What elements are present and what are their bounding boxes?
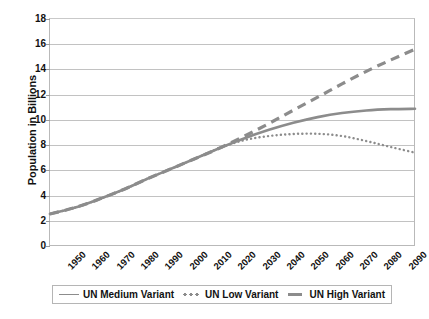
x-axis-tick-label: 2000 [187, 249, 210, 272]
population-projection-chart: Population in Billions 181614121086420 1… [0, 0, 429, 319]
series-line-dotted [50, 134, 415, 214]
y-axis-tick-label: 18 [22, 13, 46, 24]
x-axis-tick-label: 1990 [163, 249, 186, 272]
y-axis-tick-label: 10 [22, 113, 46, 124]
series-lines [50, 19, 416, 247]
chart-legend: UN Medium VariantUN Low VariantUN High V… [52, 285, 392, 304]
x-axis-tick-label: 2080 [382, 249, 405, 272]
x-axis-tick-label: 2060 [333, 249, 356, 272]
legend-label: UN Medium Variant [83, 289, 174, 300]
x-axis-tick-label: 2070 [357, 249, 380, 272]
x-axis-tick-label: 2040 [284, 249, 307, 272]
y-axis-tick-label: 8 [22, 139, 46, 150]
x-axis-tick-label: 2020 [236, 249, 259, 272]
legend-entry[interactable]: UN Low Variant [181, 289, 278, 300]
x-axis-tick-label: 1970 [114, 249, 137, 272]
x-axis-tick-label: 2030 [260, 249, 283, 272]
x-axis-tick-label: 2090 [406, 249, 429, 272]
x-axis-tick-label: 1960 [90, 249, 113, 272]
x-axis-tick-labels: 1950196019701980199020002010202020302040… [49, 247, 415, 283]
x-axis-tick-label: 1950 [65, 249, 88, 272]
legend-entry[interactable]: UN Medium Variant [59, 289, 174, 300]
dotted-line-swatch [181, 290, 201, 300]
y-axis-tick-label: 12 [22, 88, 46, 99]
legend-entry[interactable]: UN High Variant [285, 289, 385, 300]
solid-line-swatch [59, 290, 79, 300]
x-axis-tick-label: 1980 [138, 249, 161, 272]
y-axis-tick-label: 0 [22, 240, 46, 251]
legend-label: UN High Variant [309, 289, 385, 300]
y-axis-tick-label: 16 [22, 38, 46, 49]
series-line-solid [50, 109, 415, 214]
legend-label: UN Low Variant [205, 289, 278, 300]
y-axis-tick-labels: 181614121086420 [22, 18, 46, 246]
series-line-dashed [50, 49, 415, 214]
y-axis-tick-label: 14 [22, 63, 46, 74]
x-axis-tick-label: 2050 [309, 249, 332, 272]
x-axis-tick-label: 2010 [211, 249, 234, 272]
plot-area [49, 18, 415, 246]
y-axis-tick-label: 4 [22, 189, 46, 200]
y-axis-tick-label: 6 [22, 164, 46, 175]
thick-line-swatch [285, 290, 305, 300]
y-axis-tick-label: 2 [22, 214, 46, 225]
